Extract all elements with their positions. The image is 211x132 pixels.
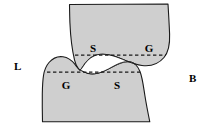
- side-label-left: L: [14, 61, 21, 72]
- grain-boundary-wetting-diagram: S G G S: [0, 0, 211, 132]
- lower-grain-label-s: S: [114, 79, 120, 91]
- upper-grain-label-g: G: [145, 42, 154, 54]
- upper-grain-label-s: S: [90, 42, 96, 54]
- side-label-right: B: [189, 73, 196, 84]
- lower-grain-label-g: G: [62, 79, 71, 91]
